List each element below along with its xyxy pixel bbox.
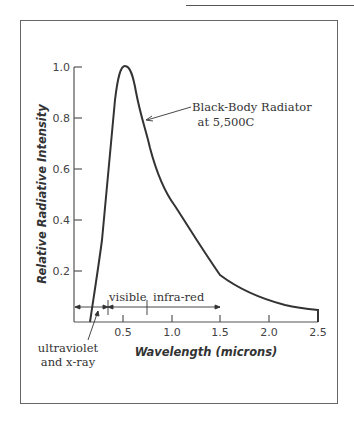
x-tick-label: 1.0 <box>163 326 181 339</box>
uv-label-line1: ultraviolet <box>38 341 99 355</box>
x-tick-label: 2.0 <box>260 326 278 339</box>
y-tick-label: 0.6 <box>53 163 71 176</box>
curve-label-pointer <box>146 107 191 121</box>
spectrum-region-arrows <box>75 300 220 340</box>
x-tick-label: 1.5 <box>211 326 229 339</box>
y-axis-title: Relative Radiative Intensity <box>35 104 49 284</box>
uv-label-line2: and x-ray <box>41 355 96 369</box>
visible-label: visible <box>108 290 147 304</box>
x-tick-label: 0.5 <box>114 326 132 339</box>
y-tick-label: 0.2 <box>53 265 71 278</box>
curve-label-line2: at 5,500C <box>198 115 255 129</box>
y-tick-label: 1.0 <box>53 61 71 74</box>
chart: 1.0 0.8 0.6 0.4 0.2 0.5 1.0 1.5 2.0 2.5 … <box>0 0 354 423</box>
y-tick-label: 0.8 <box>53 112 71 125</box>
x-axis <box>74 312 318 322</box>
infrared-label: infra-red <box>153 290 205 304</box>
y-axis <box>74 67 82 322</box>
x-tick-label: 2.5 <box>309 326 327 339</box>
y-tick-label: 0.4 <box>53 214 71 227</box>
curve-label-line1: Black-Body Radiator <box>192 100 312 114</box>
x-axis-title: Wavelength (microns) <box>135 345 278 359</box>
